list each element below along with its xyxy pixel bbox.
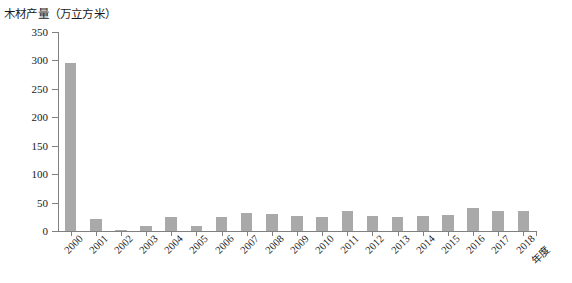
bar xyxy=(367,216,379,231)
bar-series xyxy=(58,32,536,231)
chart-title: 木材产量（万立方米） xyxy=(4,5,116,21)
x-tick-label: 2007 xyxy=(238,233,261,256)
bar xyxy=(241,213,253,231)
bar xyxy=(316,217,328,231)
bar xyxy=(417,216,429,231)
bar xyxy=(492,211,504,231)
x-tick-label: 2002 xyxy=(112,233,135,256)
bar xyxy=(266,214,278,231)
y-tick-label: 300 xyxy=(4,54,48,66)
bar xyxy=(342,211,354,231)
x-tick-label: 2005 xyxy=(188,233,211,256)
y-tick-mark xyxy=(52,231,58,232)
x-tick-label: 2016 xyxy=(464,233,487,256)
bar xyxy=(115,230,127,231)
x-tick-label: 2006 xyxy=(213,233,236,256)
y-tick-label: 0 xyxy=(4,225,48,237)
x-tick-label: 2017 xyxy=(489,233,512,256)
bar xyxy=(291,216,303,231)
chart-figure: 木材产量（万立方米） 050100150200250300350 2000200… xyxy=(0,0,572,283)
x-tick-label: 2011 xyxy=(339,233,361,255)
x-tick-label: 2014 xyxy=(414,233,437,256)
bar xyxy=(442,215,454,231)
x-tick-label: 2010 xyxy=(313,233,336,256)
x-tick-label: 2001 xyxy=(87,233,110,256)
x-tick-label: 2012 xyxy=(364,233,387,256)
x-tick-label: 2004 xyxy=(162,233,185,256)
bar xyxy=(518,211,530,231)
x-tick-label: 2008 xyxy=(263,233,286,256)
x-tick-label: 2009 xyxy=(288,233,311,256)
x-axis-tick-labels: 2000200120022003200420052006200720082009… xyxy=(58,233,548,283)
bar xyxy=(191,226,203,231)
x-tick-label: 2013 xyxy=(389,233,412,256)
bar xyxy=(140,226,152,231)
x-tick-label: 2003 xyxy=(137,233,160,256)
bar xyxy=(165,217,177,231)
bar xyxy=(65,63,77,231)
y-tick-label: 250 xyxy=(4,83,48,95)
x-tick-label: 2000 xyxy=(62,233,85,256)
y-tick-label: 50 xyxy=(4,197,48,209)
y-tick-label: 150 xyxy=(4,140,48,152)
bar xyxy=(392,217,404,231)
bar xyxy=(90,219,102,231)
bar xyxy=(467,208,479,231)
y-tick-label: 100 xyxy=(4,168,48,180)
bar xyxy=(216,217,228,231)
y-tick-label: 350 xyxy=(4,26,48,38)
x-tick-label: 2015 xyxy=(439,233,462,256)
y-tick-label: 200 xyxy=(4,111,48,123)
